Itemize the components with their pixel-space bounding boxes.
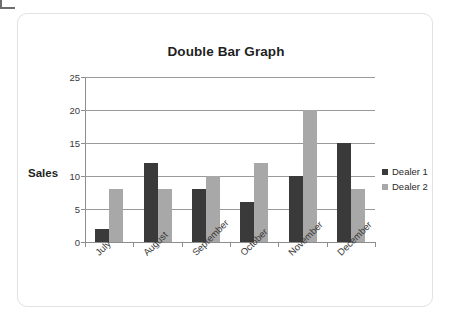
- gridline: [85, 110, 375, 111]
- y-axis-tick-label: 15: [40, 138, 80, 149]
- y-axis-tick-mark: [81, 176, 85, 177]
- x-axis-tick-mark: [278, 243, 279, 247]
- bar-group: [192, 77, 220, 242]
- chart-title: Double Bar Graph: [18, 44, 434, 59]
- y-axis-tick-mark: [81, 110, 85, 111]
- x-axis-tick-mark: [327, 243, 328, 247]
- y-axis-tick-label: 0: [40, 237, 80, 248]
- gridline: [85, 176, 375, 177]
- bar-group: [337, 77, 365, 242]
- bar: [192, 189, 206, 242]
- x-axis-tick-mark: [230, 243, 231, 247]
- bar: [337, 143, 351, 242]
- x-axis-tick-mark: [85, 243, 86, 247]
- y-axis-tick-label: 25: [40, 72, 80, 83]
- chart-legend: Dealer 1Dealer 2: [382, 164, 442, 194]
- x-axis-tick-mark: [133, 243, 134, 247]
- bar-group: [240, 77, 268, 242]
- bar-group: [95, 77, 123, 242]
- x-axis-tick-mark: [375, 243, 376, 247]
- gridline: [85, 143, 375, 144]
- y-axis-tick-mark: [81, 209, 85, 210]
- y-axis-tick-label: 10: [40, 171, 80, 182]
- y-axis-tick-mark: [81, 143, 85, 144]
- legend-swatch-icon: [382, 169, 388, 175]
- scan-corner-artifact: [0, 0, 15, 9]
- y-axis-tick-labels: 0510152025: [38, 77, 80, 242]
- bar-group: [289, 77, 317, 242]
- gridline: [85, 209, 375, 210]
- bar: [109, 189, 123, 242]
- chart-card: Double Bar Graph Sales 0510152025 Dealer…: [17, 13, 433, 307]
- x-axis-tick-mark: [182, 243, 183, 247]
- bar: [289, 176, 303, 242]
- legend-label: Dealer 2: [392, 181, 428, 192]
- bar: [144, 163, 158, 242]
- legend-swatch-icon: [382, 184, 388, 190]
- gridline: [85, 77, 375, 78]
- y-axis-tick-label: 20: [40, 105, 80, 116]
- legend-item[interactable]: Dealer 1: [382, 164, 442, 179]
- bar-group: [144, 77, 172, 242]
- y-axis-tick-label: 5: [40, 204, 80, 215]
- plot-area: [85, 77, 375, 242]
- y-axis-tick-mark: [81, 77, 85, 78]
- legend-label: Dealer 1: [392, 166, 428, 177]
- legend-item[interactable]: Dealer 2: [382, 179, 442, 194]
